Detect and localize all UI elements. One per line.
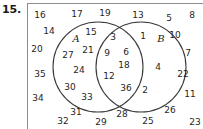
venn-number: 8 (189, 11, 195, 20)
venn-number: 32 (57, 117, 68, 126)
venn-number: 18 (118, 61, 129, 70)
diagram-frame: A B 161719135814102073522341126233231292… (27, 3, 203, 129)
venn-number: 26 (164, 106, 175, 115)
venn-stage: A B 161719135814102073522341126233231292… (28, 4, 203, 129)
venn-number: 2 (142, 86, 148, 95)
venn-number: 25 (142, 117, 153, 126)
venn-number: 15 (85, 28, 96, 37)
venn-number: 19 (99, 9, 110, 18)
set-label-b: B (157, 33, 164, 44)
venn-number: 24 (73, 66, 84, 75)
venn-number: 27 (62, 51, 73, 60)
venn-number: 33 (81, 93, 92, 102)
venn-number: 17 (71, 10, 82, 19)
venn-number: 3 (110, 33, 116, 42)
venn-diagram-exercise: 15. A B 16171913581410207352234112623323… (0, 0, 203, 129)
venn-number: 36 (120, 84, 131, 93)
venn-number: 34 (32, 94, 43, 103)
venn-number: 7 (185, 49, 191, 58)
venn-number: 11 (184, 90, 195, 99)
venn-number: 6 (123, 48, 129, 57)
venn-number: 28 (116, 110, 127, 119)
venn-number: 14 (43, 27, 54, 36)
exercise-number: 15. (2, 3, 21, 16)
venn-number: 1 (140, 32, 146, 41)
venn-number: 30 (64, 83, 75, 92)
venn-number: 5 (166, 14, 172, 23)
venn-number: 10 (169, 31, 180, 40)
venn-number: 13 (132, 11, 143, 20)
venn-number: 35 (34, 70, 45, 79)
venn-number: 29 (95, 118, 106, 127)
venn-number: 12 (103, 72, 114, 81)
venn-number: 16 (34, 11, 45, 20)
set-label-a: A (72, 33, 79, 44)
venn-number: 4 (155, 63, 161, 72)
venn-number: 9 (104, 49, 110, 58)
venn-number: 21 (82, 46, 93, 55)
venn-number: 31 (70, 108, 81, 117)
venn-number: 20 (31, 45, 42, 54)
venn-number: 22 (177, 70, 188, 79)
venn-number: 23 (189, 118, 200, 127)
